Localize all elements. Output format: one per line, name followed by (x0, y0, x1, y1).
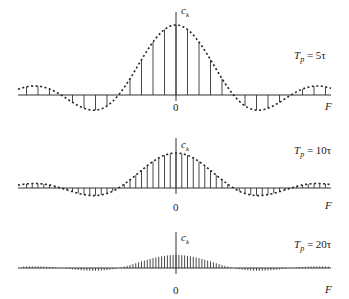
origin-label-1: 0 (173, 102, 179, 113)
ck-label-1: ck (181, 5, 189, 19)
tp-label-1: Tp = 5τ (294, 50, 326, 64)
ck-label-3: ck (181, 232, 189, 246)
origin-label-2: 0 (173, 202, 179, 213)
tp-label-3: Tp = 20τ (294, 239, 331, 253)
f-axis-label-2: F (325, 200, 332, 211)
f-axis-label-1: F (325, 101, 332, 112)
origin-label-3: 0 (173, 285, 179, 296)
tp-label-2: Tp = 10τ (294, 145, 331, 159)
f-axis-label-3: F (325, 284, 332, 295)
ck-label-2: ck (181, 139, 189, 153)
